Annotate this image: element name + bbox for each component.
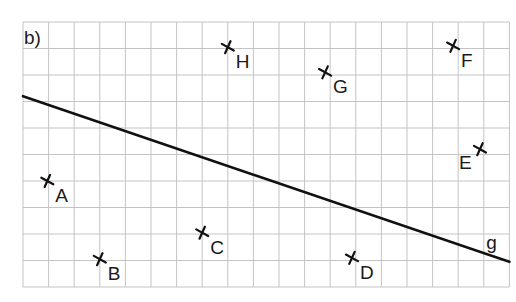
point-c: C	[196, 227, 224, 258]
point-label: H	[236, 51, 250, 72]
point-e: E	[459, 143, 486, 173]
point-a: A	[41, 175, 68, 206]
point-label: C	[210, 237, 224, 258]
point-b: B	[94, 253, 121, 284]
point-label: G	[333, 76, 348, 97]
point-label: B	[108, 263, 121, 284]
point-label: D	[360, 262, 374, 283]
point-label: A	[55, 185, 68, 206]
point-label: E	[459, 152, 472, 173]
point-d: D	[346, 252, 374, 283]
grid-figure: b) g ABCDEFGH	[0, 0, 516, 302]
point-label: F	[461, 50, 473, 71]
points: ABCDEFGH	[41, 40, 486, 284]
point-f: F	[447, 40, 473, 71]
grid-lines	[23, 22, 509, 287]
line-g-label: g	[486, 232, 497, 253]
figure-title: b)	[24, 27, 41, 48]
point-g: G	[319, 66, 348, 97]
point-h: H	[222, 41, 250, 72]
line-g	[23, 96, 509, 262]
